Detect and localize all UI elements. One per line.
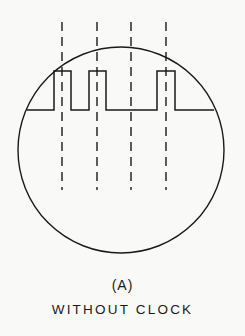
figure-label: (A) [0, 277, 245, 293]
scope-circle [18, 47, 224, 253]
figure-caption: WITHOUT CLOCK [0, 302, 245, 317]
pulse-waveform [27, 71, 214, 110]
